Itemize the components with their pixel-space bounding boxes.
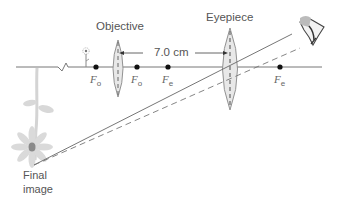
eye-icon [300, 16, 324, 45]
focal-dot-fo-right [134, 64, 139, 69]
eyepiece-label: Eyepiece [206, 12, 253, 24]
focal-dot-fe-left [165, 64, 170, 69]
diagram-canvas [0, 0, 338, 202]
objective-label: Objective [96, 21, 144, 33]
focal-label-fo-left: Fo [90, 74, 101, 88]
separation-label: 7.0 cm [154, 47, 189, 59]
object-flower-icon [83, 48, 89, 67]
focal-label-fe-right: Fe [274, 74, 285, 88]
optics-diagram: Objective Eyepiece 7.0 cm Fo Fo Fe Fe Fi… [0, 0, 338, 202]
eyepiece-lens [223, 28, 238, 110]
focal-dot-fe-right [277, 64, 282, 69]
final-image-flower-icon [11, 68, 55, 168]
focal-dot-fo-left [93, 64, 98, 69]
objective-lens [113, 40, 123, 97]
focal-label-fe-left: Fe [162, 74, 173, 88]
final-image-label-line1: Final [23, 170, 47, 181]
final-image-label-line2: image [23, 184, 53, 195]
focal-label-fo-right: Fo [131, 74, 142, 88]
